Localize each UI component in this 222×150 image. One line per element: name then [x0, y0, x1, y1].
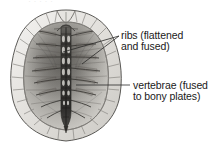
turtle-shell-illustration: · · · · · — [0, 0, 222, 150]
vertebrae-label-line2: to bony plates) — [133, 90, 200, 102]
ribs-label: ribs (flattened and fused) — [121, 29, 183, 52]
ribs-label-line2: and fused) — [121, 40, 170, 52]
vertebrae-label: vertebrae (fused to bony plates) — [133, 79, 208, 102]
svg-text:· · · · ·: · · · · · — [28, 0, 53, 6]
carapace-shell — [11, 10, 122, 141]
cropped-title-remnant: · · · · · — [28, 0, 53, 6]
figure-container: · · · · · — [0, 0, 222, 150]
